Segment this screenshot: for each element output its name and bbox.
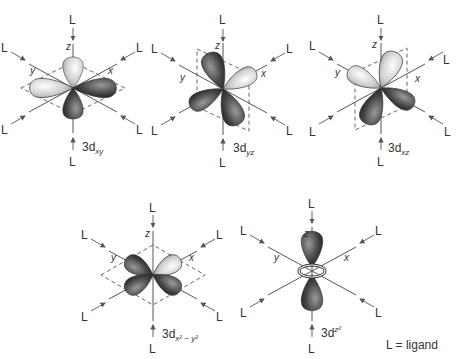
ligand-top: L bbox=[219, 13, 226, 27]
ligand-bottom: L bbox=[149, 342, 156, 356]
ligand-bottom: L bbox=[69, 155, 76, 169]
ligand-upper-right: L bbox=[443, 53, 450, 67]
y-axis-label: y bbox=[179, 72, 186, 83]
z-axis-label: z bbox=[144, 228, 150, 239]
orbital-dxz: L L L L L L z y x 3dxz bbox=[309, 13, 451, 169]
ligand-upper-left: L bbox=[240, 224, 247, 238]
ligand-lower-left: L bbox=[151, 124, 158, 138]
y-axis-label: y bbox=[29, 65, 36, 76]
ligand-upper-right: L bbox=[216, 228, 223, 242]
ligand-upper-left: L bbox=[151, 42, 158, 56]
ligand-lower-left: L bbox=[81, 310, 88, 324]
ligand-lower-right: L bbox=[286, 124, 293, 138]
orbital-caption: 3dxy bbox=[82, 140, 104, 156]
z-axis-label: z bbox=[65, 41, 71, 52]
z-axis-label: z bbox=[371, 39, 377, 50]
legend-ligand: L = ligand bbox=[386, 338, 438, 352]
orbital-dz2: L L L L L L z y x 3dz² bbox=[240, 197, 382, 356]
ligand-upper-right: L bbox=[375, 224, 382, 238]
ligand-top: L bbox=[308, 197, 315, 211]
ligand-upper-right: L bbox=[286, 42, 293, 56]
ligand-upper-right: L bbox=[136, 41, 143, 55]
orbital-caption: 3dyz bbox=[233, 141, 254, 157]
ligand-lower-right: L bbox=[444, 125, 451, 139]
ligand-upper-left: L bbox=[81, 228, 88, 242]
y-axis-label: y bbox=[110, 252, 117, 263]
x-axis-label: x bbox=[188, 252, 195, 263]
ligand-top: L bbox=[149, 201, 156, 215]
y-axis-label: y bbox=[273, 252, 280, 263]
orbital-dxy: L L L L L L z y x 3dxy bbox=[1, 13, 143, 169]
x-axis-label: x bbox=[414, 73, 421, 84]
ligand-top: L bbox=[377, 13, 384, 27]
ligand-upper-left: L bbox=[309, 39, 316, 53]
orbital-caption: 3dx² − y² bbox=[162, 327, 198, 343]
z-axis-label: z bbox=[303, 228, 309, 239]
ligand-lower-left: L bbox=[1, 123, 8, 137]
z-axis-label: z bbox=[214, 40, 220, 51]
ligand-top: L bbox=[69, 13, 76, 27]
y-axis-label: y bbox=[334, 67, 341, 78]
ligand-lower-right: L bbox=[375, 306, 382, 320]
orbital-caption: 3dxz bbox=[388, 141, 409, 157]
x-axis-label: x bbox=[343, 252, 350, 263]
x-axis-label: x bbox=[260, 68, 267, 79]
ligand-lower-right: L bbox=[136, 123, 143, 137]
ligand-lower-left: L bbox=[240, 306, 247, 320]
orbital-dyz: L L L L L L z y x 3dyz bbox=[151, 13, 293, 170]
ligand-bottom: L bbox=[377, 155, 384, 169]
ligand-bottom: L bbox=[219, 156, 226, 170]
ligand-lower-right: L bbox=[216, 310, 223, 324]
orbital-caption: 3dz² bbox=[321, 325, 341, 340]
ligand-upper-left: L bbox=[1, 41, 8, 55]
orbital-dx2-y2: L L L L L L z y x 3dx² − y² bbox=[81, 201, 223, 356]
x-axis-label: x bbox=[107, 65, 114, 76]
ligand-bottom: L bbox=[308, 342, 315, 356]
ligand-lower-left: L bbox=[309, 125, 316, 139]
d-orbital-ligand-figure: L L L L L L z y x 3dxy L L L L L L z y x… bbox=[0, 0, 456, 359]
